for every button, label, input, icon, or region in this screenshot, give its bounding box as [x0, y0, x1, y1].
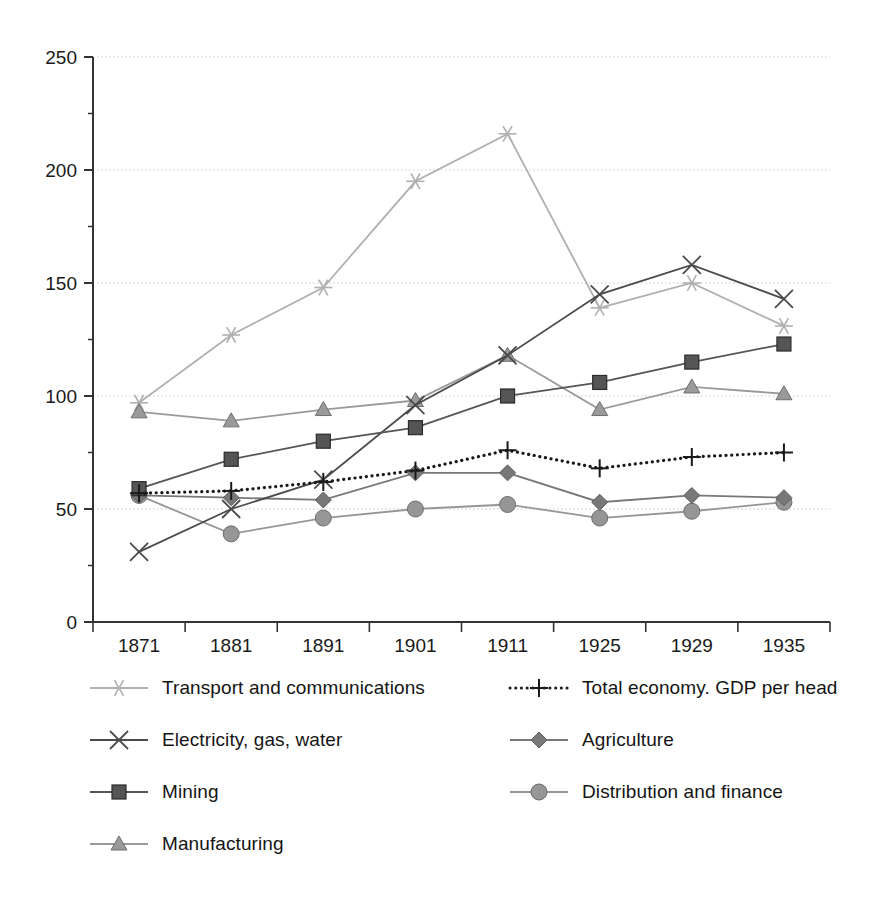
- legend-marker-icon: [88, 829, 150, 859]
- line-chart: 0501001502002501871188118911901191119251…: [0, 0, 891, 660]
- legend-item[interactable]: Transport and communications: [88, 662, 508, 714]
- x-axis-tick-label: 1871: [118, 635, 160, 656]
- data-point-marker: [316, 434, 330, 448]
- y-axis-tick-label: 50: [56, 499, 77, 520]
- legend-marker-icon: [88, 673, 150, 703]
- legend-item[interactable]: Manufacturing: [88, 818, 508, 870]
- data-point-marker: [684, 379, 700, 393]
- legend-marker-icon: [508, 725, 570, 755]
- legend-swatch-icon: [508, 673, 570, 703]
- legend-item-label: Mining: [150, 781, 219, 803]
- data-point-marker: [315, 510, 331, 526]
- data-point-marker: [593, 375, 607, 389]
- y-axis-tick-label: 150: [45, 273, 77, 294]
- data-point-marker: [592, 494, 608, 510]
- data-point-marker: [775, 318, 793, 334]
- legend-swatch-icon: [88, 829, 150, 859]
- data-point-marker: [130, 543, 148, 561]
- legend-item[interactable]: Total economy. GDP per head: [508, 662, 891, 714]
- legend-item[interactable]: Electricity, gas, water: [88, 714, 508, 766]
- data-point-marker: [406, 174, 424, 190]
- data-point-marker: [683, 275, 701, 291]
- x-axis-tick-label: 1925: [579, 635, 621, 656]
- legend-swatch-icon: [508, 777, 570, 807]
- legend-column-left: Transport and communicationsElectricity,…: [88, 662, 508, 870]
- legend-marker-icon: [508, 673, 570, 703]
- legend-item-label: Transport and communications: [150, 677, 425, 699]
- data-point-marker: [530, 679, 548, 697]
- data-point-marker: [131, 404, 147, 418]
- legend-swatch-icon: [508, 725, 570, 755]
- data-point-marker: [408, 421, 422, 435]
- legend-marker-icon: [88, 725, 150, 755]
- legend-item-label: Manufacturing: [150, 833, 284, 855]
- data-point-marker: [683, 256, 701, 274]
- data-point-marker: [531, 784, 547, 800]
- x-axis-tick-label: 1929: [671, 635, 713, 656]
- data-point-marker: [591, 459, 609, 477]
- legend-marker-icon: [508, 777, 570, 807]
- data-point-marker: [501, 389, 515, 403]
- data-point-marker: [531, 732, 547, 748]
- data-point-marker: [406, 462, 424, 480]
- y-axis-tick-label: 0: [66, 612, 77, 633]
- data-point-marker: [111, 836, 127, 850]
- data-point-marker: [500, 465, 516, 481]
- y-axis-tick-label: 200: [45, 160, 77, 181]
- x-axis-tick-label: 1935: [763, 635, 805, 656]
- data-point-marker: [224, 452, 238, 466]
- x-axis-tick-label: 1891: [302, 635, 344, 656]
- legend-item[interactable]: Agriculture: [508, 714, 891, 766]
- y-axis-tick-label: 250: [45, 47, 77, 68]
- legend-swatch-icon: [88, 673, 150, 703]
- x-axis-tick-label: 1911: [487, 635, 528, 656]
- data-point-marker: [407, 501, 423, 517]
- legend-swatch-icon: [88, 777, 150, 807]
- chart-legend: Transport and communicationsElectricity,…: [0, 662, 891, 913]
- data-point-marker: [685, 355, 699, 369]
- data-point-marker: [315, 492, 331, 508]
- legend-item-label: Electricity, gas, water: [150, 729, 342, 751]
- data-point-marker: [775, 444, 793, 462]
- x-axis-tick-label: 1901: [394, 635, 436, 656]
- data-point-marker: [112, 785, 126, 799]
- data-point-marker: [314, 280, 332, 296]
- legend-marker-icon: [88, 777, 150, 807]
- data-point-marker: [777, 337, 791, 351]
- data-point-marker: [775, 290, 793, 308]
- data-point-marker: [683, 448, 701, 466]
- legend-item[interactable]: Distribution and finance: [508, 766, 891, 818]
- legend-item-label: Distribution and finance: [570, 781, 783, 803]
- data-point-marker: [223, 526, 239, 542]
- y-axis-tick-label: 100: [45, 386, 77, 407]
- data-point-marker: [684, 487, 700, 503]
- x-axis-tick-label: 1881: [210, 635, 252, 656]
- data-point-marker: [684, 503, 700, 519]
- data-point-marker: [500, 496, 516, 512]
- legend-item-label: Agriculture: [570, 729, 674, 751]
- legend-item[interactable]: Mining: [88, 766, 508, 818]
- data-point-marker: [591, 300, 609, 316]
- data-point-marker: [592, 510, 608, 526]
- plot-svg: 0501001502002501871188118911901191119251…: [0, 0, 891, 660]
- legend-swatch-icon: [88, 725, 150, 755]
- chart-page: 0501001502002501871188118911901191119251…: [0, 0, 891, 913]
- legend-column-right: Total economy. GDP per headAgricultureDi…: [508, 662, 891, 818]
- data-point-marker: [499, 441, 517, 459]
- legend-item-label: Total economy. GDP per head: [570, 677, 837, 699]
- data-point-marker: [110, 680, 128, 696]
- data-point-marker: [499, 126, 517, 142]
